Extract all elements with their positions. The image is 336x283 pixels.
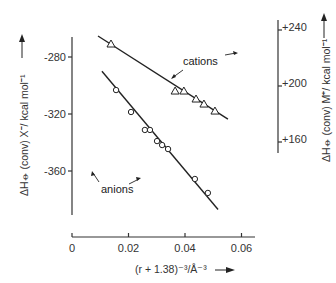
x-tick-label: 0.02 <box>118 242 139 254</box>
y-right-tick-label: +240 <box>282 21 307 33</box>
anions-point <box>113 87 118 92</box>
arrowhead-cations <box>171 74 176 79</box>
cations-point <box>107 40 115 47</box>
y-right-tick-label: +160 <box>282 133 307 145</box>
x-axis-title: (r + 1.38)⁻³/Å⁻³ <box>135 263 207 275</box>
cations-point <box>180 87 188 94</box>
anions-point <box>165 146 170 151</box>
x-tick-label: 0 <box>69 242 75 254</box>
y-right-ticks: +240+200+160 <box>278 21 307 145</box>
anions-point <box>205 190 210 195</box>
cations-fit-line <box>98 36 228 119</box>
y-axis-right-title: ΔH⦵ (conv) M⁺/ kcal mol⁻¹ <box>320 38 332 162</box>
y-left-tick-label: -280 <box>44 51 66 63</box>
y-axis-left-title: ΔH⦵ (conv) X⁻/ kcal mol⁻¹ <box>18 74 30 196</box>
anions-point <box>192 176 197 181</box>
chart: 00.020.040.06 -280-320-360 +240+200+160 … <box>0 0 336 283</box>
x-tick-label: 0.04 <box>174 242 195 254</box>
y-left-tick-label: -320 <box>44 108 66 120</box>
anions-point <box>147 127 152 132</box>
anions-point <box>159 142 164 147</box>
anions-point <box>154 138 159 143</box>
x-arrowhead <box>226 267 235 273</box>
y-left-tick-label: -360 <box>44 165 66 177</box>
y-left-arrowhead <box>19 34 25 42</box>
x-tick-label: 0.06 <box>231 242 252 254</box>
anions-point <box>128 109 133 114</box>
y-right-arrowhead <box>321 13 327 21</box>
cations-point <box>171 87 179 94</box>
annotation-cations: cations <box>183 55 218 67</box>
arrowhead-right-cations <box>233 51 238 55</box>
cations-point <box>211 107 219 114</box>
annotation-anions: anions <box>101 183 134 195</box>
y-left-ticks: -280-320-360 <box>44 51 72 177</box>
x-ticks: 00.020.040.06 <box>69 233 252 254</box>
y-right-tick-label: +200 <box>282 77 307 89</box>
